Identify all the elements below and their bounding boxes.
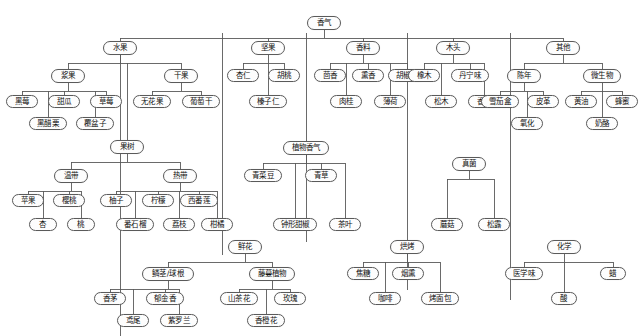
node-temperate[interactable]: 温带: [54, 169, 88, 183]
node-tannin[interactable]: 丹宁味: [451, 69, 489, 82]
node-fig[interactable]: 无花果: [133, 95, 171, 108]
node-camellia[interactable]: 山茶花: [220, 292, 258, 305]
node-smoke[interactable]: 烟熏: [392, 267, 424, 280]
node-other[interactable]: 其他: [546, 41, 580, 55]
node-raspberry[interactable]: 覆盆子: [76, 117, 114, 130]
node-driedfruit[interactable]: 干果: [164, 69, 198, 83]
node-tulip[interactable]: 郁金香: [146, 292, 184, 305]
node-oak[interactable]: 橡木: [408, 69, 440, 82]
node-rose[interactable]: 玫瑰: [274, 292, 306, 305]
node-cigarbox[interactable]: 雪茄盒: [481, 95, 519, 108]
node-fennel[interactable]: 茴香: [314, 69, 346, 82]
aroma-taxonomy-diagram: 香气水果浆果黑莓甜瓜草莓黑醋栗覆盆子干果无花果葡萄干果树温带苹果樱桃杏桃热带柚子…: [0, 0, 643, 336]
node-spice[interactable]: 香料: [346, 41, 380, 55]
node-pine[interactable]: 松木: [425, 95, 457, 108]
node-raisin[interactable]: 葡萄干: [182, 95, 220, 108]
node-bulb[interactable]: 鳞茎/球根: [142, 267, 194, 281]
node-fungi[interactable]: 真菌: [452, 157, 486, 171]
node-tealeaf[interactable]: 茶叶: [329, 218, 361, 231]
node-coffee[interactable]: 咖啡: [369, 292, 401, 305]
node-citrus[interactable]: 柑橘: [201, 218, 233, 231]
node-guava[interactable]: 番石榴: [116, 218, 154, 231]
node-caramel[interactable]: 焦糖: [347, 267, 379, 280]
node-truffle[interactable]: 松露: [478, 218, 510, 231]
node-almond[interactable]: 杏仁: [227, 69, 259, 82]
node-tropical[interactable]: 热带: [163, 169, 197, 183]
node-oxidized[interactable]: 氧化: [511, 117, 543, 130]
node-pomelo[interactable]: 柚子: [100, 194, 132, 207]
node-greenbean[interactable]: 青菜豆: [244, 169, 282, 182]
node-toast[interactable]: 烤面包: [421, 292, 459, 305]
node-orangeblossom[interactable]: 香橙花: [247, 314, 285, 327]
node-passionfruit[interactable]: 西番莲: [180, 194, 218, 207]
node-roasted[interactable]: 烘烤: [390, 240, 424, 254]
node-microbial[interactable]: 微生物: [583, 69, 621, 83]
node-aged[interactable]: 陈年: [507, 69, 541, 83]
node-flower[interactable]: 鲜花: [228, 240, 262, 254]
node-apricot[interactable]: 杏: [29, 218, 57, 231]
node-walnut[interactable]: 胡桃: [268, 69, 300, 82]
node-cinnamon[interactable]: 肉桂: [330, 95, 362, 108]
node-fruit[interactable]: 水果: [103, 41, 137, 55]
node-leather[interactable]: 皮革: [527, 95, 559, 108]
node-lemongrass[interactable]: 香茅: [94, 292, 126, 305]
node-incense[interactable]: 熏香: [352, 69, 384, 82]
node-honey[interactable]: 蜂蜜: [606, 95, 638, 108]
node-bellpepper[interactable]: 钟形甜椒: [273, 218, 317, 231]
node-berry[interactable]: 浆果: [51, 69, 85, 83]
node-blackcurrant[interactable]: 黑醋栗: [29, 117, 67, 130]
node-chemical[interactable]: 化学: [547, 240, 581, 254]
node-melon[interactable]: 甜瓜: [48, 95, 80, 108]
node-hazelnut[interactable]: 榛子仁: [249, 95, 287, 108]
node-violet[interactable]: 紫罗兰: [160, 314, 198, 327]
node-wax[interactable]: 蜡: [600, 267, 626, 280]
node-lemon[interactable]: 柠檬: [142, 194, 174, 207]
node-wood[interactable]: 木头: [436, 41, 470, 55]
node-apple[interactable]: 苹果: [12, 194, 44, 207]
node-cheese[interactable]: 奶酪: [586, 117, 618, 130]
node-peach[interactable]: 桃: [67, 218, 95, 231]
node-medicinal[interactable]: 医学味: [505, 267, 543, 280]
node-nuts[interactable]: 坚果: [251, 41, 285, 55]
node-acid[interactable]: 酸: [551, 292, 577, 305]
node-plantaroma[interactable]: 植物香气: [283, 141, 329, 155]
node-vine[interactable]: 藤蔓植物: [249, 267, 295, 281]
node-fruittree[interactable]: 果树: [110, 140, 144, 154]
node-mint[interactable]: 薄荷: [374, 95, 406, 108]
node-strawberry[interactable]: 草莓: [90, 95, 122, 108]
node-blackberry[interactable]: 黑莓: [6, 95, 38, 108]
node-mushroom[interactable]: 蘑菇: [431, 218, 463, 231]
node-lychee[interactable]: 荔枝: [163, 218, 195, 231]
node-grass[interactable]: 青草: [305, 169, 337, 182]
node-cherry[interactable]: 樱桃: [53, 194, 85, 207]
node-root[interactable]: 香气: [307, 16, 341, 30]
node-iris[interactable]: 鸢尾: [117, 314, 149, 327]
node-butter[interactable]: 黄油: [565, 95, 597, 108]
